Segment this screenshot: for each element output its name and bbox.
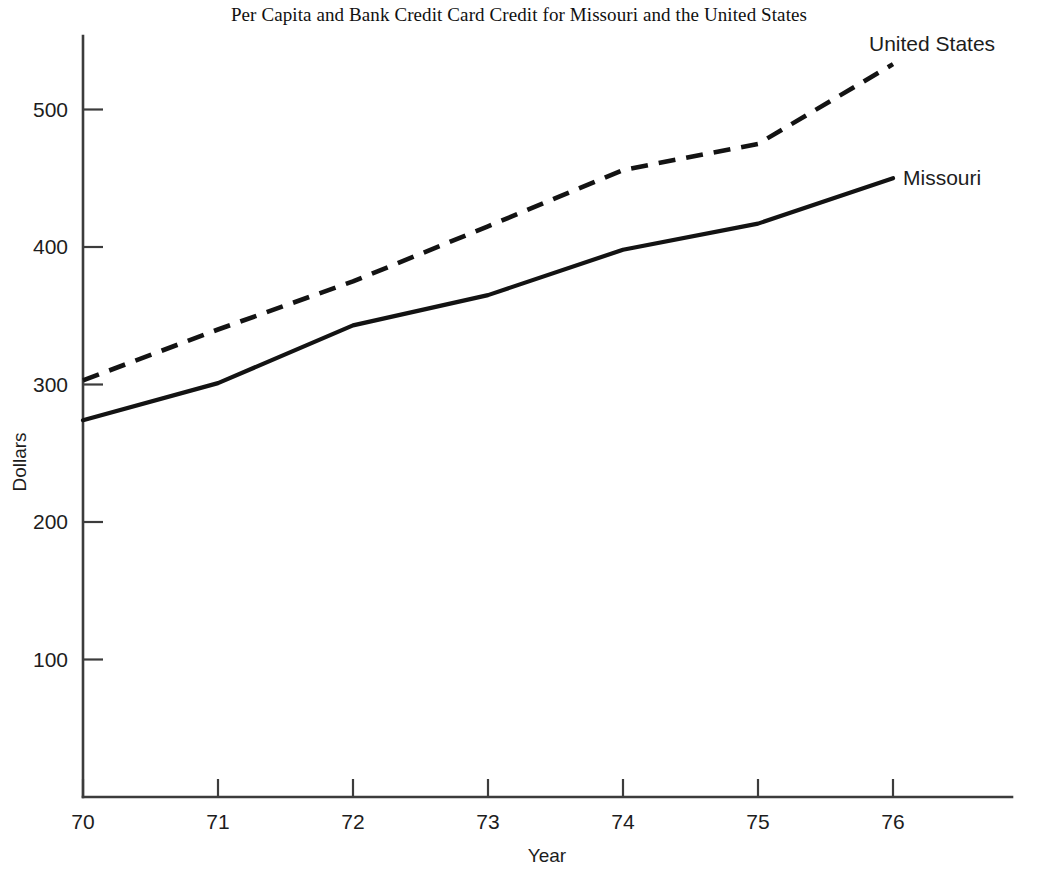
y-axis-ticks [83,110,103,660]
y-tick-label: 100 [33,648,68,671]
x-axis-ticks [83,779,893,797]
y-tick-label: 500 [33,98,68,121]
series-line-missouri [83,178,893,420]
series-label-missouri: Missouri [903,166,981,189]
line-chart-plot: 100 200 300 400 500 70 71 72 73 74 75 76… [0,0,1038,874]
x-tick-label: 75 [746,810,769,833]
y-tick-label: 200 [33,510,68,533]
x-tick-label: 72 [341,810,364,833]
x-tick-label: 71 [206,810,229,833]
y-tick-label: 400 [33,235,68,258]
y-tick-label: 300 [33,373,68,396]
x-tick-label: 73 [476,810,499,833]
x-tick-label: 70 [71,810,94,833]
x-tick-label: 76 [881,810,904,833]
series-label-united-states: United States [869,32,995,55]
series-line-united-states [83,64,893,380]
y-axis-title: Dollars [9,432,30,491]
chart-container: Per Capita and Bank Credit Card Credit f… [0,0,1038,874]
x-tick-label: 74 [611,810,635,833]
x-axis-title: Year [528,845,567,866]
